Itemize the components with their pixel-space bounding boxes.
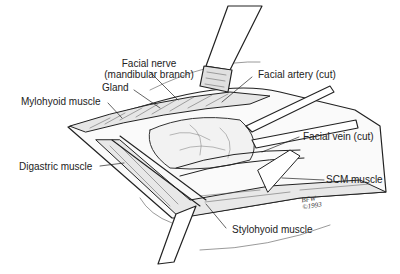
retractor-lower [158,206,196,264]
label-gland: Gland [102,82,129,93]
artist-signature: BFW ©1993 [301,195,322,212]
illustration: Facial nerve (mandibular branch) Gland M… [0,0,400,274]
label-mylohyoid-muscle: Mylohyoid muscle [21,96,100,107]
label-stylohyoid-muscle: Stylohyoid muscle [232,224,313,235]
label-facial-nerve: Facial nerve (mandibular branch) [94,58,204,80]
label-facial-vein: Facial vein (cut) [303,131,374,142]
gland [149,118,254,169]
retractor-upper [206,6,262,70]
retractor-upper-blade [200,66,232,92]
label-facial-nerve-line2: (mandibular branch) [94,69,204,80]
label-scm-muscle: SCM muscle [326,174,383,185]
label-facial-artery: Facial artery (cut) [258,69,336,80]
label-facial-nerve-line1: Facial nerve [94,58,204,69]
label-digastric-muscle: Digastric muscle [19,161,92,172]
